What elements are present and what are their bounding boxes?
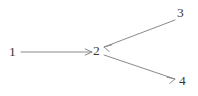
node-label-4: 4 bbox=[179, 74, 186, 88]
edge-1-to-2 bbox=[21, 49, 92, 55]
node-label-2: 2 bbox=[93, 44, 100, 58]
edge-3-to-2-arrowhead bbox=[104, 45, 112, 52]
edge-2-to-4-line bbox=[104, 55, 175, 79]
edge-3-to-2 bbox=[104, 20, 175, 52]
node-label-1: 1 bbox=[9, 45, 16, 59]
edge-2-to-4 bbox=[104, 55, 175, 83]
graph-figure: 1 2 3 4 bbox=[0, 0, 198, 96]
node-label-3: 3 bbox=[177, 6, 184, 20]
edge-3-to-2-line bbox=[104, 20, 175, 47]
